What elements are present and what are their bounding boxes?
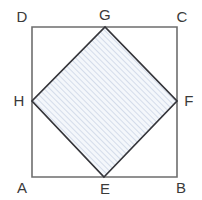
label-D: D <box>16 8 27 25</box>
label-G: G <box>99 6 111 23</box>
label-H: H <box>13 92 24 109</box>
label-C: C <box>176 8 187 25</box>
inner-square-hatched <box>32 27 177 177</box>
label-A: A <box>17 179 27 196</box>
label-E: E <box>100 180 110 197</box>
label-B: B <box>176 179 186 196</box>
geometry-figure: A B C D E F G H <box>0 0 202 200</box>
geometry-canvas: A B C D E F G H <box>0 0 202 200</box>
label-F: F <box>184 92 193 109</box>
